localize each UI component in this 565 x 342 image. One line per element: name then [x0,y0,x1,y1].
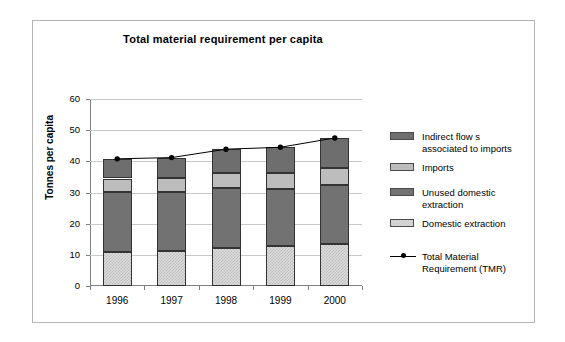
y-axis-title-container: Tonnes per capita [55,21,56,208]
chart-screenshot: Total material requirement per capita To… [0,0,565,342]
tmr-data-point [223,146,228,151]
legend-item-label: Total Material Requirement (TMR) [422,251,560,275]
legend-item-label: Imports [422,162,560,174]
chart-legend: Indirect flow s associated to importsImp… [390,131,560,282]
tmr-data-point [332,135,337,140]
chart-title: Total material requirement per capita [33,33,413,45]
legend-item[interactable]: Unused domestic extraction [390,187,560,211]
x-tick-label: 1997 [142,286,202,306]
y-tick-label: 10 [46,250,80,260]
x-tick-label: 1999 [250,286,310,306]
x-tick-mark [362,286,363,290]
y-tick-label: 0 [46,281,80,291]
legend-item-label: Unused domestic extraction [422,187,560,211]
legend-item[interactable]: Indirect flow s associated to imports [390,131,560,155]
tmr-line-overlay [90,99,362,286]
tmr-data-point [115,156,120,161]
legend-color-swatch [390,219,414,227]
chart-frame: Total material requirement per capita To… [32,20,535,323]
legend-item[interactable]: Total Material Requirement (TMR) [390,251,560,275]
x-tick-label: 1998 [196,286,256,306]
y-tick-label: 30 [46,188,80,198]
legend-color-swatch [390,188,414,196]
y-tick-label: 20 [46,219,80,229]
x-tick-label: 1996 [87,286,147,306]
legend-marker-dot [401,253,406,258]
x-tick-label: 2000 [305,286,365,306]
legend-item-label: Domestic extraction [422,218,560,230]
legend-color-swatch [390,132,414,140]
tmr-data-point [169,155,174,160]
plot-area: 0102030405060 19961997199819992000 [90,99,362,286]
legend-item-label: Indirect flow s associated to imports [422,131,560,155]
legend-item[interactable]: Imports [390,162,560,176]
y-tick-label: 40 [46,156,80,166]
y-tick-label: 60 [46,94,80,104]
tmr-data-point [278,145,283,150]
legend-color-swatch [390,163,414,171]
legend-item[interactable]: Domestic extraction [390,218,560,232]
y-tick-label: 50 [46,125,80,135]
